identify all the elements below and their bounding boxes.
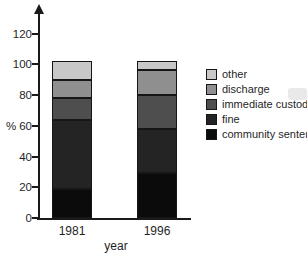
legend-label: discharge <box>222 84 270 95</box>
x-tick-label-1996: 1996 <box>127 224 187 238</box>
y-tick-mark <box>32 217 38 219</box>
bar-segment-community-sentence-1996 <box>137 173 177 218</box>
bar-segment-other-1981 <box>52 61 92 79</box>
y-tick-mark <box>32 186 38 188</box>
bar-segment-immediate-custody-1996 <box>137 95 177 129</box>
legend-item-fine: fine <box>206 112 307 127</box>
y-tick-label: 100 <box>6 59 32 70</box>
legend-label: immediate custody <box>222 99 307 110</box>
legend-swatch-icon <box>206 99 217 110</box>
y-tick-label: 60 <box>6 121 32 132</box>
x-tick-label-1981: 1981 <box>42 224 102 238</box>
bar-segment-discharge-1981 <box>52 80 92 98</box>
legend-item-community-sentence: community sentence <box>206 127 307 142</box>
y-tick-label: 80 <box>6 90 32 101</box>
legend-label: community sentence <box>222 129 307 140</box>
legend-label: other <box>222 69 247 80</box>
legend: otherdischargeimmediate custodyfinecommu… <box>206 67 307 142</box>
legend-swatch-icon <box>206 84 217 95</box>
scan-artifact <box>288 88 307 100</box>
bar-segment-community-sentence-1981 <box>52 189 92 218</box>
legend-label: fine <box>222 114 240 125</box>
legend-swatch-icon <box>206 114 217 125</box>
legend-swatch-icon <box>206 69 217 80</box>
y-tick-label: 0 <box>6 213 32 224</box>
x-axis-label: year <box>96 239 136 253</box>
y-tick-label: 40 <box>6 152 32 163</box>
bar-segment-other-1996 <box>137 61 177 70</box>
y-tick-mark <box>32 33 38 35</box>
bar-segment-fine-1981 <box>52 120 92 189</box>
y-axis-line <box>38 12 40 220</box>
y-tick-mark <box>32 156 38 158</box>
bar-segment-immediate-custody-1981 <box>52 98 92 120</box>
bar-segment-discharge-1996 <box>137 70 177 95</box>
y-tick-mark <box>32 63 38 65</box>
bar-segment-fine-1996 <box>137 129 177 174</box>
stacked-bar-chart-figure: % 020406080100120 19811996 year otherdis… <box>0 0 307 259</box>
y-tick-label: 120 <box>6 29 32 40</box>
x-axis-line <box>37 218 191 220</box>
legend-swatch-icon <box>206 129 217 140</box>
y-tick-mark <box>32 94 38 96</box>
legend-item-other: other <box>206 67 307 82</box>
y-tick-label: 20 <box>6 182 32 193</box>
y-tick-mark <box>32 125 38 127</box>
